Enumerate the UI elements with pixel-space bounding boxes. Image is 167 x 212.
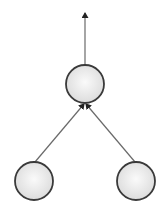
node-right-child — [117, 162, 155, 200]
node-left-child — [15, 162, 53, 200]
tree-diagram — [0, 0, 167, 212]
nodes — [15, 65, 155, 200]
diagram-canvas — [0, 0, 167, 212]
node-root — [66, 65, 104, 103]
edge-left-child-to-root — [35, 104, 84, 162]
edge-right-child-to-root — [86, 104, 135, 162]
